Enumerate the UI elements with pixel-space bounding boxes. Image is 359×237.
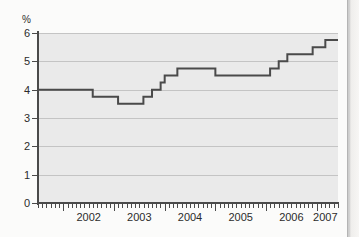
x-axis-tick-minor xyxy=(253,204,254,208)
page-edge-line xyxy=(347,0,348,237)
y-axis-tick xyxy=(32,203,37,204)
x-axis-tick-minor xyxy=(139,204,140,208)
x-axis-tick-minor xyxy=(296,204,297,208)
x-axis-tick-minor xyxy=(177,204,178,208)
x-axis-tick-minor xyxy=(76,204,77,208)
x-axis-tick-minor xyxy=(51,204,52,208)
x-axis-tick-minor xyxy=(169,204,170,208)
x-axis-tick-minor xyxy=(249,204,250,208)
x-axis-tick-label: 2003 xyxy=(116,211,162,223)
x-axis-tick-minor xyxy=(46,204,47,208)
x-axis-tick-minor xyxy=(106,204,107,208)
x-axis-tick-minor xyxy=(186,204,187,208)
x-axis-tick-minor xyxy=(236,204,237,208)
x-axis-tick-minor xyxy=(224,204,225,208)
y-axis-tick-label: 1 xyxy=(4,170,30,181)
x-axis-tick-minor xyxy=(97,204,98,208)
x-axis-tick-minor xyxy=(283,204,284,208)
x-axis-tick-minor xyxy=(321,204,322,208)
x-axis-tick-minor xyxy=(287,204,288,208)
y-axis-tick-label: 6 xyxy=(4,28,30,39)
x-axis-tick-minor xyxy=(122,204,123,208)
x-axis-tick-major xyxy=(266,204,267,211)
x-axis-tick-minor xyxy=(93,204,94,208)
x-axis-tick-minor xyxy=(194,204,195,208)
x-axis-tick-minor xyxy=(156,204,157,208)
x-axis-tick-minor xyxy=(55,204,56,208)
y-axis-tick-label: 4 xyxy=(4,85,30,96)
x-axis-tick-minor xyxy=(127,204,128,208)
x-axis-tick-minor xyxy=(300,204,301,208)
x-axis-line xyxy=(37,202,339,204)
x-axis-tick-minor xyxy=(131,204,132,208)
x-axis-tick-minor xyxy=(84,204,85,208)
data-series-line xyxy=(38,33,338,203)
x-axis-tick-minor xyxy=(220,204,221,208)
x-axis-tick-minor xyxy=(72,204,73,208)
x-axis-tick-minor xyxy=(110,204,111,208)
y-axis-tick xyxy=(32,146,37,147)
x-axis-tick-minor xyxy=(118,204,119,208)
x-axis-tick-minor xyxy=(274,204,275,208)
y-axis-line xyxy=(37,31,39,205)
x-axis-tick-minor xyxy=(173,204,174,208)
x-axis-tick-minor xyxy=(207,204,208,208)
x-axis-tick-minor xyxy=(42,204,43,208)
x-axis-tick-minor xyxy=(89,204,90,208)
x-axis-tick-minor xyxy=(334,204,335,208)
x-axis-tick-minor xyxy=(80,204,81,208)
y-axis-tick xyxy=(32,175,37,176)
x-axis-tick-minor xyxy=(135,204,136,208)
y-axis-tick-label: 2 xyxy=(4,141,30,152)
x-axis-tick-label: 2005 xyxy=(218,211,264,223)
y-axis-tick-label: 5 xyxy=(4,56,30,67)
y-axis-tick-label: 0 xyxy=(4,198,30,209)
y-axis-tick xyxy=(32,61,37,62)
x-axis-tick-major xyxy=(114,204,115,211)
x-axis-tick-minor xyxy=(245,204,246,208)
y-axis-tick xyxy=(32,33,37,34)
x-axis-tick-major xyxy=(165,204,166,211)
x-axis-tick-minor xyxy=(38,204,39,208)
y-axis-tick xyxy=(32,90,37,91)
y-axis-labels: 0123456 xyxy=(0,0,30,237)
x-axis-tick-minor xyxy=(182,204,183,208)
x-axis-tick-label: 2007 xyxy=(302,211,348,223)
x-axis-tick-minor xyxy=(190,204,191,208)
x-axis-tick-minor xyxy=(232,204,233,208)
x-axis-tick-minor xyxy=(241,204,242,208)
x-axis-tick-minor xyxy=(270,204,271,208)
x-axis-tick-minor xyxy=(279,204,280,208)
x-axis-tick-minor xyxy=(291,204,292,208)
x-axis-tick-minor xyxy=(228,204,229,208)
chart-figure: 0123456 % 200220032004200520062007 xyxy=(0,0,359,237)
x-axis-tick-major xyxy=(63,204,64,211)
x-axis-tick-minor xyxy=(68,204,69,208)
x-axis-tick-minor xyxy=(144,204,145,208)
x-axis-tick-minor xyxy=(338,204,339,208)
x-axis-tick-minor xyxy=(304,204,305,208)
y-axis-tick-label: 3 xyxy=(4,113,30,124)
x-axis-tick-minor xyxy=(325,204,326,208)
x-axis-tick-minor xyxy=(59,204,60,208)
y-axis-unit-label: % xyxy=(22,14,31,25)
x-axis-tick-minor xyxy=(312,204,313,208)
x-axis-tick-major xyxy=(215,204,216,211)
x-axis-tick-minor xyxy=(148,204,149,208)
x-axis-tick-major xyxy=(317,204,318,211)
x-axis-tick-minor xyxy=(160,204,161,208)
x-axis-tick-minor xyxy=(211,204,212,208)
x-axis-tick-minor xyxy=(308,204,309,208)
x-axis-tick-label: 2004 xyxy=(167,211,213,223)
x-axis-tick-minor xyxy=(258,204,259,208)
x-axis-tick-minor xyxy=(203,204,204,208)
x-axis-tick-minor xyxy=(262,204,263,208)
x-axis-tick-minor xyxy=(198,204,199,208)
x-axis-tick-minor xyxy=(101,204,102,208)
x-axis-tick-minor xyxy=(152,204,153,208)
y-axis-tick xyxy=(32,118,37,119)
x-axis-tick-minor xyxy=(329,204,330,208)
page-edge-shadow xyxy=(347,0,359,237)
x-axis-tick-label: 2002 xyxy=(66,211,112,223)
